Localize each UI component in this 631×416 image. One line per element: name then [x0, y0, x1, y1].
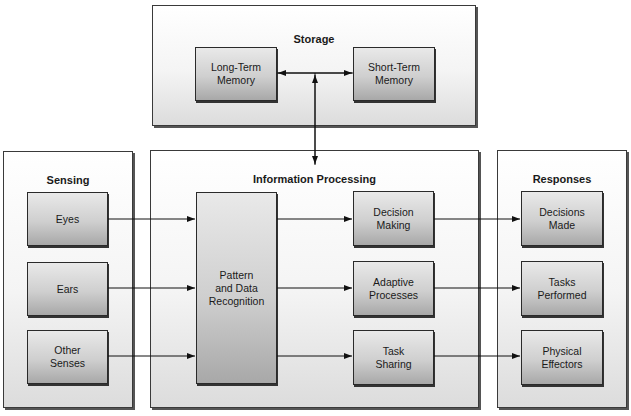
connector-arrows [0, 0, 631, 416]
